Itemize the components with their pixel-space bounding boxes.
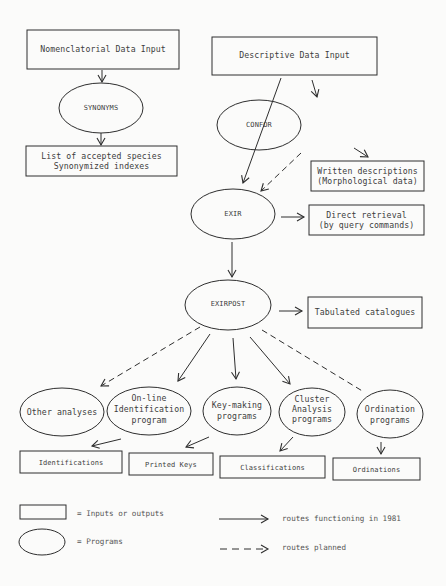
arrow-exirpost-keymaking xyxy=(233,338,236,379)
written-descriptions-line2: (Morphological data) xyxy=(311,176,424,186)
classifications-label: Classifications xyxy=(220,463,325,473)
arrow-descriptive-confor xyxy=(312,80,317,97)
legend-ellipse-symbol xyxy=(19,529,65,555)
arrow-descriptive-exir xyxy=(243,78,281,183)
legend-ellipse-label: = Programs xyxy=(77,537,123,546)
cluster-analysis-line3: programs xyxy=(279,414,345,424)
tabulated-catalogues-label: Tabulated catalogues xyxy=(308,307,422,317)
nomenclatorial-input-label: Nomenclatorial Data Input xyxy=(27,44,179,54)
ordination-line1: Ordination xyxy=(357,404,423,414)
dashed-arrow-confor-exir xyxy=(261,153,301,191)
written-descriptions-line1: Written descriptions xyxy=(311,166,424,176)
synonyms-label: SYNONYMS xyxy=(59,103,143,113)
online-identification-line2: Identification xyxy=(107,404,191,414)
online-identification-line3: program xyxy=(107,415,191,425)
identifications-label: Identifications xyxy=(20,458,122,468)
arrow-exirpost-cluster xyxy=(250,337,290,384)
cluster-analysis-line2: Analysis xyxy=(279,404,345,414)
ordination-ellipse xyxy=(357,390,423,438)
arrow-keymaking-printedkeys xyxy=(186,437,209,447)
arrow-cluster-classifications xyxy=(280,437,293,451)
online-identification-line1: On-line xyxy=(107,393,191,403)
key-making-line2: programs xyxy=(203,411,271,421)
ordination-line2: programs xyxy=(357,415,423,425)
ordinations-label: Ordinations xyxy=(333,465,420,475)
arrow-confor-written xyxy=(354,148,368,157)
descriptive-input-label: Descriptive Data Input xyxy=(212,50,377,60)
legend-box-label: = Inputs or outputs xyxy=(77,509,164,518)
legend-dashed-label: routes planned xyxy=(282,543,346,552)
accepted-species-line2: Synonymized indexes xyxy=(26,161,177,171)
diagram-canvas xyxy=(0,0,446,586)
dashed-arrow-exirpost-ordination xyxy=(262,330,364,392)
dashed-arrow-exirpost-other xyxy=(101,327,200,386)
cluster-analysis-line1: Cluster xyxy=(279,394,345,404)
arrow-online-identifications xyxy=(92,439,121,446)
exirpost-label: EXIRPOST xyxy=(185,299,271,309)
printed-keys-label: Printed Keys xyxy=(129,460,213,470)
accepted-species-line1: List of accepted species xyxy=(26,151,177,161)
exir-label: EXIR xyxy=(191,209,275,219)
confor-label: CONFOR xyxy=(217,120,301,130)
legend-box-symbol xyxy=(20,505,66,519)
direct-retrieval-line1: Direct retrieval xyxy=(309,210,424,220)
legend-solid-label: routes functioning in 1981 xyxy=(282,514,401,523)
other-analyses-label: Other analyses xyxy=(20,407,104,417)
key-making-line1: Key-making xyxy=(203,400,271,410)
arrow-exirpost-online xyxy=(178,334,210,381)
direct-retrieval-line2: (by query commands) xyxy=(309,220,424,230)
